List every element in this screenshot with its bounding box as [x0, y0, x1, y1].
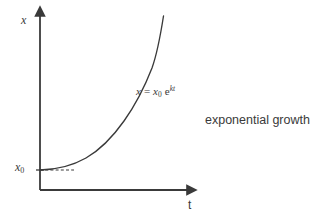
curve-equation-label: x=x0ekt: [136, 86, 175, 97]
x-axis-label: t: [188, 199, 191, 211]
x0-subscript: 0: [20, 166, 24, 175]
equation-exponent: kt: [170, 84, 175, 93]
y-axis-label: x: [21, 14, 26, 26]
caption-exponential-growth: exponential growth: [205, 114, 310, 127]
equation-subscript: 0: [158, 90, 162, 99]
exponential-growth-figure: [0, 0, 329, 218]
equation-lhs: x: [136, 85, 141, 97]
equation-operator: =: [144, 85, 150, 97]
x0-axis-tick-label: x0: [15, 161, 24, 173]
equation-e: e: [165, 85, 170, 97]
